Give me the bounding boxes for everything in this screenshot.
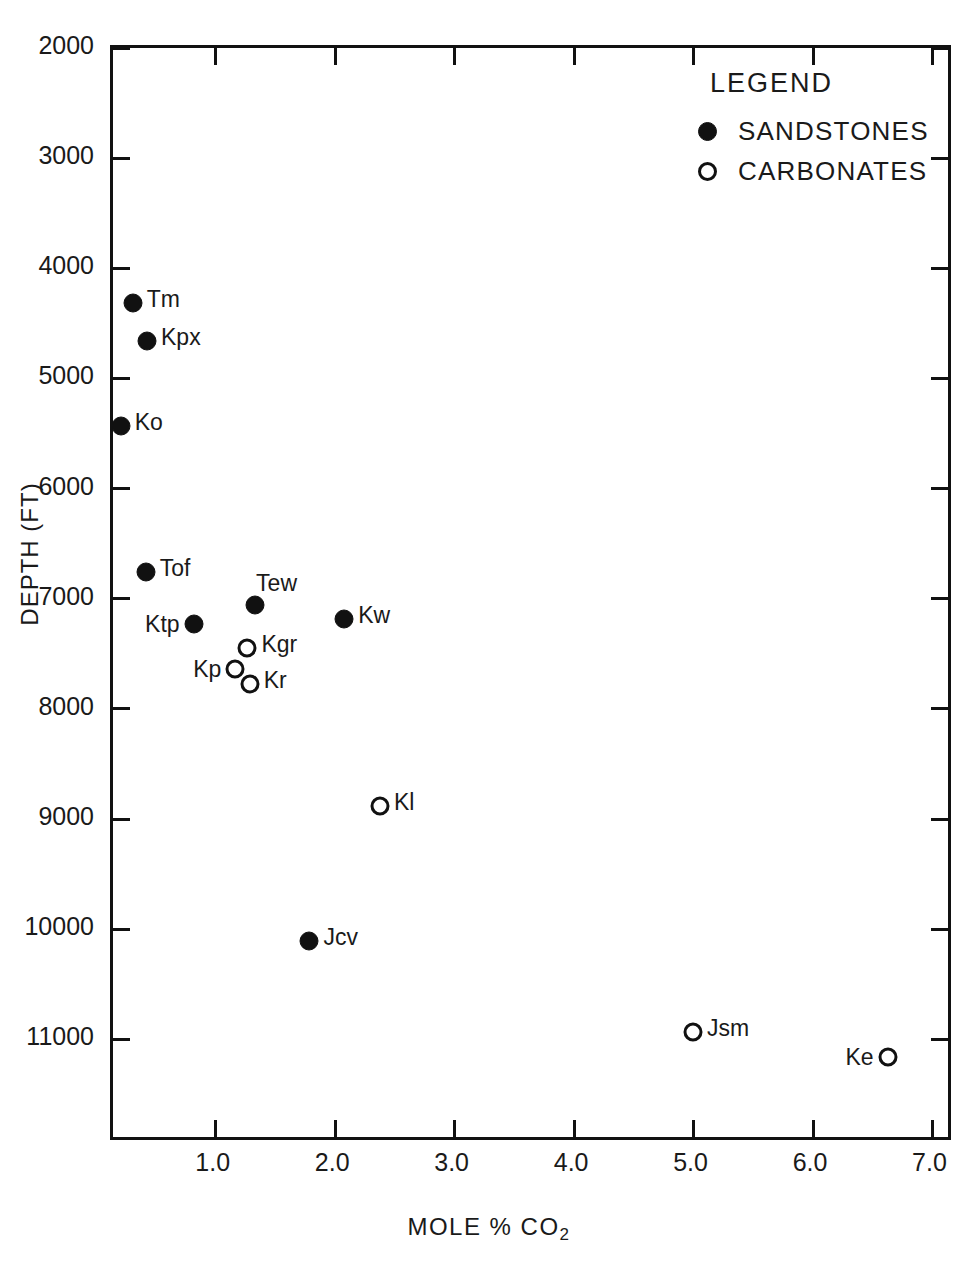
data-point-tof	[136, 562, 155, 581]
x-axis-tick	[931, 1120, 934, 1137]
x-axis-tick-label: 4.0	[554, 1148, 589, 1177]
filled-circle-icon	[698, 122, 717, 141]
data-point-label-kp: Kp	[193, 655, 221, 682]
y-axis-tick	[113, 47, 130, 50]
data-point-label-kl: Kl	[394, 789, 414, 816]
open-circle-icon	[698, 162, 717, 181]
scatter-chart-figure: DEPTH (FT) MOLE % CO2 200030004000500060…	[0, 0, 978, 1276]
x-axis-tick	[931, 48, 934, 65]
y-axis-tick-label: 6000	[38, 471, 94, 500]
data-point-kw	[335, 609, 354, 628]
y-axis-tick	[113, 267, 130, 270]
data-point-ko	[111, 417, 130, 436]
y-axis-tick-label: 5000	[38, 361, 94, 390]
data-point-tew	[245, 595, 264, 614]
x-axis-tick-label: 7.0	[912, 1148, 947, 1177]
y-axis-tick	[113, 1038, 130, 1041]
y-axis-tick	[931, 707, 948, 710]
x-axis-tick	[214, 48, 217, 65]
data-point-label-jcv: Jcv	[323, 923, 358, 950]
y-axis-tick	[931, 818, 948, 821]
y-axis-tick	[931, 597, 948, 600]
data-point-kl	[370, 797, 389, 816]
x-axis-title-subscript: 2	[560, 1225, 571, 1244]
x-axis-tick	[453, 48, 456, 65]
data-point-kr	[240, 674, 259, 693]
y-axis-tick	[931, 267, 948, 270]
data-point-ktp	[184, 615, 203, 634]
x-axis-tick-label: 6.0	[793, 1148, 828, 1177]
y-axis-tick-label: 2000	[38, 31, 94, 60]
data-point-label-ke: Ke	[846, 1044, 874, 1071]
y-axis-tick-label: 11000	[26, 1022, 94, 1051]
y-axis-tick	[113, 707, 130, 710]
plot-area	[110, 45, 951, 1140]
y-axis-tick-label: 9000	[38, 802, 94, 831]
data-point-kpx	[138, 332, 157, 351]
y-axis-tick	[113, 377, 130, 380]
data-point-label-jsm: Jsm	[707, 1015, 749, 1042]
legend-entry-label: CARBONATES	[738, 156, 927, 187]
data-point-label-ktp: Ktp	[145, 611, 180, 638]
y-axis-tick-label: 10000	[24, 912, 94, 941]
data-point-kp	[226, 659, 245, 678]
y-axis-tick-label: 8000	[38, 691, 94, 720]
legend-entry-sandstones: SANDSTONES	[640, 116, 940, 147]
data-point-jsm	[683, 1023, 702, 1042]
y-axis-tick	[931, 377, 948, 380]
legend-entry-label: SANDSTONES	[738, 116, 929, 147]
x-axis-tick	[692, 48, 695, 65]
data-point-kgr	[238, 638, 257, 657]
x-axis-title: MOLE % CO2	[0, 1213, 978, 1245]
x-axis-tick	[334, 48, 337, 65]
data-point-label-tew: Tew	[256, 570, 297, 597]
x-axis-tick	[214, 1120, 217, 1137]
x-axis-tick	[334, 1120, 337, 1137]
legend-title: LEGEND	[644, 68, 899, 99]
x-axis-tick	[692, 1120, 695, 1137]
x-axis-tick-label: 1.0	[195, 1148, 230, 1177]
y-axis-tick	[931, 487, 948, 490]
data-point-label-kw: Kw	[358, 601, 390, 628]
x-axis-tick	[573, 48, 576, 65]
x-axis-tick	[573, 1120, 576, 1137]
data-point-label-tm: Tm	[147, 285, 180, 312]
x-axis-tick-label: 2.0	[315, 1148, 350, 1177]
y-axis-tick	[113, 928, 130, 931]
data-point-label-kgr: Kgr	[261, 630, 297, 657]
x-axis-title-text: MOLE % CO	[407, 1213, 559, 1240]
data-point-label-ko: Ko	[135, 409, 163, 436]
y-axis-tick	[113, 597, 130, 600]
x-axis-tick-label: 3.0	[434, 1148, 469, 1177]
data-point-label-kr: Kr	[264, 666, 287, 693]
y-axis-tick	[113, 487, 130, 490]
y-axis-tick	[113, 818, 130, 821]
x-axis-tick	[812, 1120, 815, 1137]
y-axis-tick	[931, 928, 948, 931]
data-point-ke	[878, 1048, 897, 1067]
x-axis-tick	[812, 48, 815, 65]
y-axis-tick	[931, 1038, 948, 1041]
x-axis-tick-label: 5.0	[673, 1148, 708, 1177]
data-point-jcv	[300, 931, 319, 950]
y-axis-tick-label: 3000	[38, 141, 94, 170]
x-axis-tick	[453, 1120, 456, 1137]
data-point-label-kpx: Kpx	[161, 324, 201, 351]
data-point-label-tof: Tof	[160, 554, 191, 581]
y-axis-tick-label: 7000	[38, 581, 94, 610]
legend-entry-carbonates: CARBONATES	[640, 156, 940, 187]
chart-legend: LEGEND SANDSTONES CARBONATES	[640, 68, 940, 187]
data-point-tm	[123, 293, 142, 312]
y-axis-tick	[113, 157, 130, 160]
y-axis-tick-label: 4000	[38, 251, 94, 280]
